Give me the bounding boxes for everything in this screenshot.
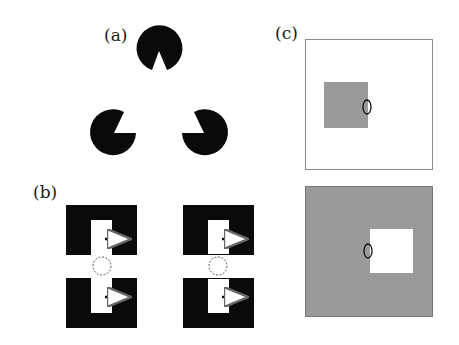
panel-b-right <box>183 205 254 328</box>
pacman-bottom-right <box>182 109 228 155</box>
panel-a <box>90 25 228 155</box>
notch-top-right <box>208 220 229 254</box>
panel-c-bottom <box>306 187 433 317</box>
panel-b-left <box>66 205 137 328</box>
dashed-circle-left <box>93 257 111 275</box>
frame-bottom <box>306 187 433 317</box>
gray-square <box>324 82 368 128</box>
white-square <box>370 229 413 273</box>
dashed-circle-right <box>209 257 227 275</box>
panel-c-top <box>306 40 433 170</box>
figure-canvas <box>0 0 459 345</box>
pacman-top <box>137 25 183 70</box>
pacman-bottom-left <box>90 109 136 155</box>
block-top-left <box>66 205 137 255</box>
block-bottom-left <box>66 278 137 328</box>
